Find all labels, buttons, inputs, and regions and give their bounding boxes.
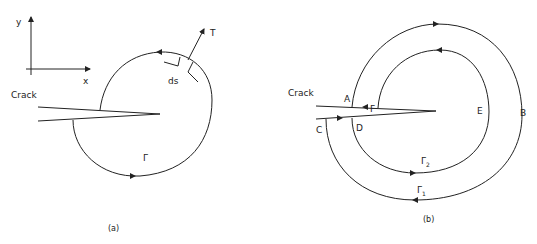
arrow-g1-top xyxy=(433,21,439,27)
ds-marker-right xyxy=(188,62,198,82)
arrow-g2-top xyxy=(436,47,442,53)
crack-label: Crack xyxy=(11,90,37,100)
traction-vector xyxy=(188,29,204,60)
caption-b: (b) xyxy=(423,215,434,224)
arrow-crack-upper xyxy=(362,104,368,110)
j-integral-diagram: y x Crack T ds Γ (a) Crack A F C D E B Γ… xyxy=(0,0,537,244)
point-e: E xyxy=(477,106,483,116)
arrow-crack-lower xyxy=(337,115,343,121)
x-axis-label: x xyxy=(83,76,89,86)
y-axis-label: y xyxy=(16,17,22,27)
crack xyxy=(38,107,160,121)
point-f: F xyxy=(370,104,375,114)
arrow-g1-bottom xyxy=(412,197,418,203)
gamma-1-label: Γ1 xyxy=(417,185,426,197)
point-c: C xyxy=(316,125,322,135)
caption-a: (a) xyxy=(108,224,119,233)
ds-marker-left xyxy=(164,57,180,66)
panel-b: Crack A F C D E B Γ2 Γ1 (b) xyxy=(288,21,526,224)
gamma-2-label: Γ2 xyxy=(421,156,430,168)
contour-arrow-bottom xyxy=(130,173,136,179)
point-d: D xyxy=(356,123,363,133)
arrow-g2-bottom xyxy=(410,170,416,176)
panel-a: y x Crack T ds Γ (a) xyxy=(11,17,216,233)
contour-label: Γ xyxy=(143,153,148,163)
ds-label: ds xyxy=(168,76,179,86)
point-a: A xyxy=(344,94,351,104)
crack-label-b: Crack xyxy=(288,88,314,98)
traction-label: T xyxy=(209,28,216,38)
contour-arrow-top xyxy=(156,49,162,55)
point-b: B xyxy=(520,108,526,118)
crack-b xyxy=(316,106,436,119)
